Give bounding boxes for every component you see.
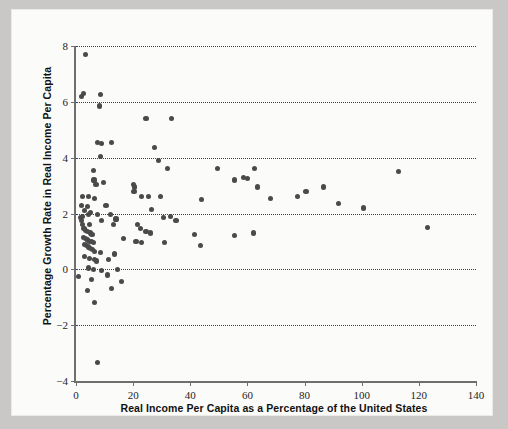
y-tick-mark — [71, 381, 76, 382]
data-point — [98, 154, 103, 159]
y-axis-title: Percentage Growth Rate in Real Income Pe… — [41, 46, 53, 346]
data-point — [98, 250, 103, 255]
gridline-y — [76, 158, 476, 159]
figure-card: 020406080100120140 −4−202468 Real Income… — [12, 10, 492, 415]
data-point — [113, 216, 118, 221]
y-tick-label: 4 — [63, 152, 69, 164]
x-tick-label: 80 — [299, 389, 310, 401]
data-point — [89, 232, 94, 237]
x-tick-mark — [76, 381, 77, 386]
x-tick-mark — [476, 381, 477, 386]
x-tick-label: 140 — [468, 389, 485, 401]
x-tick-mark — [305, 381, 306, 386]
gridline-y — [76, 46, 476, 47]
y-tick-label: −2 — [56, 319, 68, 331]
data-point — [115, 267, 120, 272]
x-axis-title: Real Income Per Capita as a Percentage o… — [74, 402, 474, 414]
y-tick-mark — [71, 102, 76, 103]
data-point — [268, 196, 273, 201]
data-point — [97, 103, 102, 108]
data-point — [143, 116, 148, 121]
data-point — [361, 205, 366, 210]
data-point — [92, 249, 97, 254]
y-tick-mark — [71, 214, 76, 215]
x-tick-label: 60 — [242, 389, 253, 401]
data-point — [111, 222, 116, 227]
gridline-y — [76, 269, 476, 270]
data-point — [94, 258, 99, 263]
data-point — [79, 203, 84, 208]
figure-page: 020406080100120140 −4−202468 Real Income… — [0, 0, 508, 429]
data-point — [81, 91, 86, 96]
data-point — [131, 189, 136, 194]
x-tick-mark — [419, 381, 420, 386]
x-tick-mark — [190, 381, 191, 386]
x-tick-label: 100 — [353, 389, 370, 401]
gridline-y — [76, 325, 476, 326]
y-tick-mark — [71, 46, 76, 47]
data-point — [161, 215, 166, 220]
x-tick-label: 120 — [411, 389, 428, 401]
data-point — [425, 225, 430, 230]
gridline-y — [76, 102, 476, 103]
x-tick-label: 0 — [73, 389, 79, 401]
y-tick-label: 8 — [63, 40, 69, 52]
data-point — [321, 184, 326, 189]
y-tick-mark — [71, 158, 76, 159]
x-tick-mark — [362, 381, 363, 386]
data-point — [133, 239, 138, 244]
data-point — [85, 288, 90, 293]
x-tick-label: 40 — [185, 389, 196, 401]
y-tick-label: 0 — [63, 263, 69, 275]
gridline-y — [76, 214, 476, 215]
data-point — [173, 218, 178, 223]
data-point — [89, 277, 94, 282]
y-tick-label: 2 — [63, 208, 69, 220]
data-point — [255, 184, 260, 189]
data-point — [303, 189, 308, 194]
data-point — [92, 196, 97, 201]
data-point — [93, 182, 98, 187]
x-tick-mark — [247, 381, 248, 386]
data-point — [91, 168, 96, 173]
y-tick-mark — [71, 269, 76, 270]
data-point — [105, 272, 110, 277]
data-point — [251, 230, 256, 235]
data-point — [148, 230, 153, 235]
y-tick-label: 6 — [63, 96, 69, 108]
y-tick-label: −4 — [56, 375, 68, 387]
x-tick-mark — [133, 381, 134, 386]
x-tick-label: 20 — [128, 389, 139, 401]
data-point — [168, 214, 173, 219]
data-point — [232, 177, 237, 182]
data-point — [121, 236, 126, 241]
data-point — [103, 203, 108, 208]
data-point — [99, 141, 104, 146]
plot-frame: 020406080100120140 −4−202468 — [74, 46, 476, 383]
data-point — [112, 251, 117, 256]
data-point — [198, 243, 203, 248]
data-point — [83, 52, 88, 57]
y-tick-mark — [71, 325, 76, 326]
